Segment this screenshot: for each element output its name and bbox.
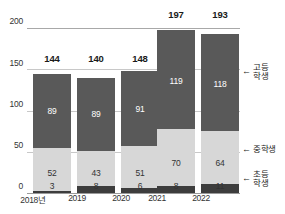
y-axis-tick-200: 200 <box>0 16 23 26</box>
stacked-bar-chart: 0 50 100 150 200 144 89 52 3 140 89 43 <box>0 0 285 214</box>
bar-group-2022[interactable]: 193 118 64 11 <box>201 8 239 193</box>
legend-label-high-school: 고등 학생 <box>253 63 268 81</box>
bar-total-label: 148 <box>121 53 159 64</box>
segment-elementary-school-label: 11 <box>201 182 239 191</box>
legend-callout-middle-school: ← 중학생 <box>242 145 276 154</box>
segment-middle-school-label: 43 <box>77 169 115 178</box>
bar-group-2021[interactable]: 197 119 70 8 <box>157 8 195 193</box>
legend-label-middle-school: 중학생 <box>253 145 276 154</box>
bar-group-2020[interactable]: 148 91 51 6 <box>121 8 159 193</box>
segment-elementary-school-label: 6 <box>121 182 159 191</box>
bar-group-2018[interactable]: 144 89 52 3 <box>33 8 71 193</box>
segment-high-school-label: 89 <box>33 107 71 116</box>
segment-middle-school-label: 51 <box>121 169 159 178</box>
bar-total-label: 193 <box>201 9 239 20</box>
arrow-left-icon: ← <box>242 67 251 76</box>
legend-callout-high-school: ← 고등 학생 <box>242 63 268 81</box>
bar-total-label: 197 <box>157 9 195 20</box>
x-axis-tick-2022: 2022 <box>179 193 223 203</box>
bar-total-label: 144 <box>33 53 71 64</box>
legend-label-elementary-school: 초등 학생 <box>253 170 268 188</box>
segment-high-school-label: 119 <box>157 77 195 86</box>
x-axis-tick-2019: 2019 <box>55 193 99 203</box>
y-axis-tick-150: 150 <box>0 58 23 68</box>
segment-high-school-label: 118 <box>201 80 239 89</box>
segment-middle-school-label: 64 <box>201 159 239 168</box>
bar-total-label: 140 <box>77 53 115 64</box>
segment-middle-school-label: 52 <box>33 169 71 178</box>
segment-elementary-school-label: 8 <box>77 182 115 191</box>
bar-group-2019[interactable]: 140 89 43 8 <box>77 8 115 193</box>
plot-area: 144 89 52 3 140 89 43 8 148 91 51 <box>27 8 240 193</box>
segment-high-school-label: 89 <box>77 110 115 119</box>
segment-elementary-school-label: 3 <box>33 182 71 191</box>
x-axis-tick-2021: 2021 <box>135 193 179 203</box>
y-axis-tick-0: 0 <box>0 181 23 191</box>
segment-elementary-school-label: 8 <box>157 182 195 191</box>
arrow-left-icon: ← <box>242 174 251 183</box>
segment-middle-school-label: 70 <box>157 159 195 168</box>
segment-high-school-label: 91 <box>121 105 159 114</box>
y-axis-tick-50: 50 <box>0 140 23 150</box>
legend-callout-elementary-school: ← 초등 학생 <box>242 170 268 188</box>
y-axis-tick-100: 100 <box>0 99 23 109</box>
x-axis-tick-2018: 2018년 <box>11 193 55 205</box>
arrow-left-icon: ← <box>242 145 251 154</box>
